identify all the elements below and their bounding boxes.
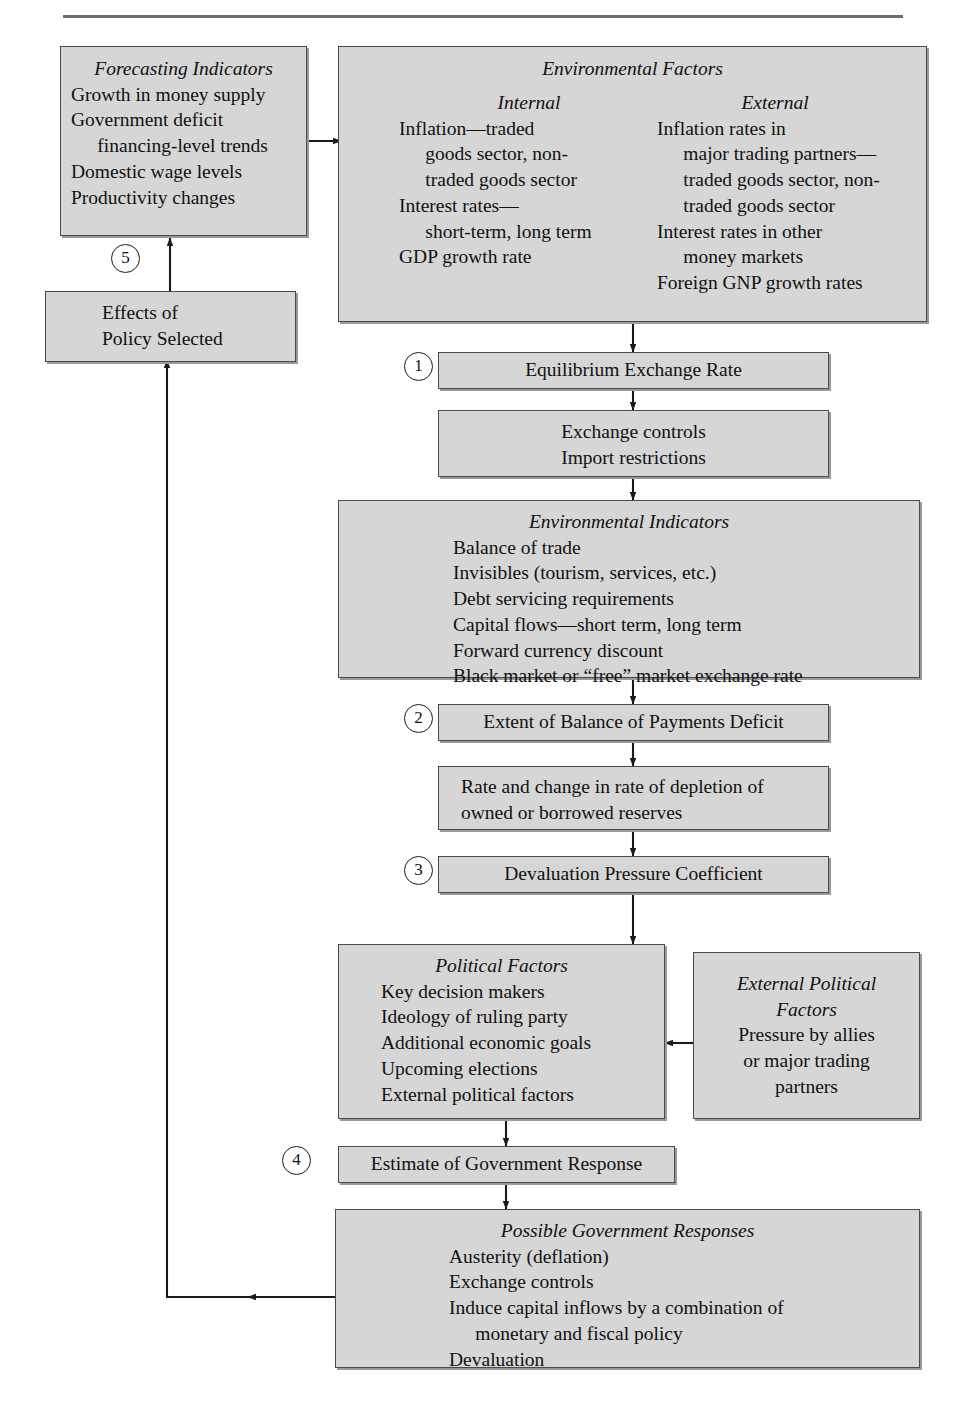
box-political-factors: Political Factors Key decision makers Id… xyxy=(338,944,665,1119)
political-factors-item: Key decision makers xyxy=(381,979,654,1005)
rate-of-depletion-line: Rate and change in rate of depletion of xyxy=(461,774,828,800)
internal-item: Inflation—traded xyxy=(399,116,659,142)
external-item: major trading partners— xyxy=(657,141,927,167)
internal-heading: Internal xyxy=(399,90,659,116)
figure-canvas: 1 2 3 4 5 Forecasting Indicators Growth … xyxy=(0,0,967,1428)
exchange-controls-line: Exchange controls xyxy=(439,419,828,445)
environmental-indicators-item: Debt servicing requirements xyxy=(453,586,909,612)
forecasting-indicators-item: Domestic wage levels xyxy=(71,159,296,185)
box-exchange-controls: Exchange controls Import restrictions xyxy=(438,410,829,477)
possible-government-responses-item: Austerity (deflation) xyxy=(449,1244,909,1270)
political-factors-item: Additional economic goals xyxy=(381,1030,654,1056)
possible-government-responses-title: Possible Government Responses xyxy=(346,1218,909,1244)
box-forecasting-indicators: Forecasting Indicators Growth in money s… xyxy=(60,46,307,236)
rate-of-depletion-line: owned or borrowed reserves xyxy=(461,800,828,826)
step-marker-2: 2 xyxy=(404,704,433,733)
environmental-indicators-item: Forward currency discount xyxy=(453,638,909,664)
internal-item: short-term, long term xyxy=(399,219,659,245)
external-item: Inflation rates in xyxy=(657,116,927,142)
environmental-factors-external-column: External Inflation rates in major tradin… xyxy=(657,90,927,296)
forecasting-indicators-item: Productivity changes xyxy=(71,185,296,211)
box-extent-of-balance-of-payments-deficit: Extent of Balance of Payments Deficit xyxy=(438,704,829,741)
internal-item: GDP growth rate xyxy=(399,244,659,270)
forecasting-indicators-item: Growth in money supply xyxy=(71,82,296,108)
environmental-indicators-item: Capital flows—short term, long term xyxy=(453,612,909,638)
external-heading: External xyxy=(657,90,893,116)
extent-of-bop-deficit-label: Extent of Balance of Payments Deficit xyxy=(483,711,784,732)
internal-item: goods sector, non- xyxy=(399,141,659,167)
political-factors-title: Political Factors xyxy=(349,953,654,979)
box-external-political-factors: External Political Factors Pressure by a… xyxy=(693,952,920,1119)
box-environmental-factors: Environmental Factors Internal Inflation… xyxy=(338,46,927,322)
environmental-factors-title: Environmental Factors xyxy=(349,56,916,82)
external-item: Foreign GNP growth rates xyxy=(657,270,927,296)
internal-item: Interest rates— xyxy=(399,193,659,219)
possible-government-responses-item: Induce capital inflows by a combination … xyxy=(449,1295,909,1321)
possible-government-responses-item: Devaluation xyxy=(449,1347,909,1373)
external-item: traded goods sector xyxy=(657,193,927,219)
political-factors-item: Ideology of ruling party xyxy=(381,1004,654,1030)
political-factors-item: External political factors xyxy=(381,1082,654,1108)
step-marker-3: 3 xyxy=(404,856,433,885)
effects-of-policy-line: Effects of xyxy=(102,300,295,326)
box-effects-of-policy-selected: Effects of Policy Selected xyxy=(45,291,296,362)
exchange-controls-line: Import restrictions xyxy=(439,445,828,471)
external-political-factors-item: Pressure by allies xyxy=(702,1022,911,1048)
step-marker-4: 4 xyxy=(282,1146,311,1175)
environmental-factors-internal-column: Internal Inflation—traded goods sector, … xyxy=(399,90,659,270)
political-factors-item: Upcoming elections xyxy=(381,1056,654,1082)
devaluation-pressure-coefficient-label: Devaluation Pressure Coefficient xyxy=(504,863,762,884)
external-political-factors-title-line: Factors xyxy=(702,997,911,1023)
environmental-indicators-item: Balance of trade xyxy=(453,535,909,561)
box-rate-of-depletion: Rate and change in rate of depletion of … xyxy=(438,766,829,830)
box-devaluation-pressure-coefficient: Devaluation Pressure Coefficient xyxy=(438,856,829,893)
external-item: Interest rates in other xyxy=(657,219,927,245)
top-rule xyxy=(63,15,903,18)
box-estimate-of-government-response: Estimate of Government Response xyxy=(338,1146,675,1183)
external-item: traded goods sector, non- xyxy=(657,167,927,193)
estimate-of-government-response-label: Estimate of Government Response xyxy=(371,1153,642,1174)
effects-of-policy-line: Policy Selected xyxy=(102,326,295,352)
forecasting-indicators-item: financing-level trends xyxy=(71,133,296,159)
external-item: money markets xyxy=(657,244,927,270)
possible-government-responses-item: monetary and fiscal policy xyxy=(449,1321,909,1347)
box-equilibrium-exchange-rate: Equilibrium Exchange Rate xyxy=(438,352,829,389)
environmental-indicators-item: Black market or “free” market exchange r… xyxy=(453,663,909,689)
box-possible-government-responses: Possible Government Responses Austerity … xyxy=(335,1209,920,1368)
external-political-factors-item: partners xyxy=(702,1074,911,1100)
environmental-indicators-title: Environmental Indicators xyxy=(349,509,909,535)
forecasting-indicators-title: Forecasting Indicators xyxy=(71,56,296,82)
box-environmental-indicators: Environmental Indicators Balance of trad… xyxy=(338,500,920,678)
external-political-factors-item: or major trading xyxy=(702,1048,911,1074)
forecasting-indicators-item: Government deficit xyxy=(71,107,296,133)
internal-item: traded goods sector xyxy=(399,167,659,193)
equilibrium-exchange-rate-label: Equilibrium Exchange Rate xyxy=(525,359,742,380)
step-marker-5: 5 xyxy=(111,244,140,273)
environmental-indicators-item: Invisibles (tourism, services, etc.) xyxy=(453,560,909,586)
possible-government-responses-item: Exchange controls xyxy=(449,1269,909,1295)
external-political-factors-title-line: External Political xyxy=(702,971,911,997)
step-marker-1: 1 xyxy=(404,352,433,381)
